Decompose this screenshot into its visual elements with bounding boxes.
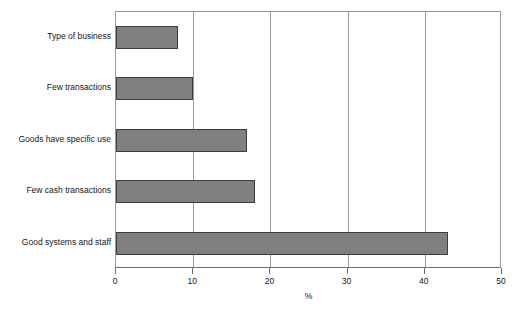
category-axis-labels: Type of business Few transactions Goods … <box>0 11 111 268</box>
x-tick-label: 20 <box>265 276 274 286</box>
x-axis-title-text: % <box>305 291 313 301</box>
x-tick-30 <box>347 268 348 274</box>
x-tick-50 <box>501 268 502 274</box>
bar-few-transactions <box>116 77 193 100</box>
category-label: Goods have specific use <box>1 134 111 144</box>
x-tick-10 <box>192 268 193 274</box>
x-tick-label: 10 <box>187 276 196 286</box>
x-tick-label: 30 <box>342 276 351 286</box>
category-label: Good systems and staff <box>1 237 111 247</box>
category-label: Type of business <box>1 31 111 41</box>
category-label: Few cash transactions <box>1 185 111 195</box>
x-tick-label: 40 <box>419 276 428 286</box>
x-tick-label: 50 <box>496 276 505 286</box>
x-tick-20 <box>269 268 270 274</box>
bar-band <box>116 166 500 217</box>
x-tick-40 <box>424 268 425 274</box>
bar-band <box>116 63 500 114</box>
bar-goods-have-specific-use <box>116 129 247 152</box>
bar-band <box>116 115 500 166</box>
bar-type-of-business <box>116 26 178 49</box>
bar-band <box>116 12 500 63</box>
bar-good-systems-and-staff <box>116 232 448 255</box>
bar-few-cash-transactions <box>116 180 255 203</box>
category-label: Few transactions <box>1 82 111 92</box>
plot-area <box>115 11 501 268</box>
bar-chart: Type of business Few transactions Goods … <box>0 0 523 313</box>
x-tick-0 <box>115 268 116 274</box>
x-tick-label: 0 <box>113 276 118 286</box>
x-axis-title: % <box>0 291 523 301</box>
bar-band <box>116 218 500 269</box>
